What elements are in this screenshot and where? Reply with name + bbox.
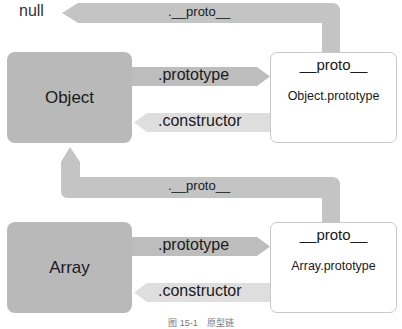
array-prototype-box: __proto__ Array.prototype [270,222,397,313]
proto-link-middle-label: .__proto__ [168,178,230,193]
object-prototype-label: .prototype [158,66,229,84]
object-label: Object [45,88,94,108]
figure-caption: 图 15-1 原型链 [0,316,402,329]
array-prototype-proto-header: __proto__ [271,226,396,243]
array-prototype-name: Array.prototype [271,259,396,273]
object-prototype-box: __proto__ Object.prototype [270,52,397,143]
object-constructor-label: .constructor [158,112,242,130]
null-label: null [19,2,44,20]
object-constructor-box: Object [7,52,132,143]
array-constructor-box: Array [7,222,132,313]
array-label: Array [49,258,90,278]
array-constructor-label: .constructor [158,282,242,300]
proto-link-top-label: .__proto__ [168,4,230,19]
object-prototype-proto-header: __proto__ [271,56,396,73]
array-prototype-label: .prototype [158,236,229,254]
object-prototype-name: Object.prototype [271,89,396,103]
